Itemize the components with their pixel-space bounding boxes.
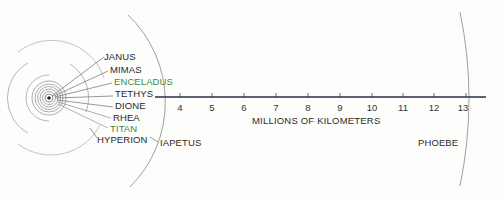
tick-label-6: 6 bbox=[241, 103, 246, 113]
tick-label-13: 13 bbox=[458, 103, 469, 113]
tick-label-11: 11 bbox=[398, 103, 408, 113]
tick-label-9: 9 bbox=[337, 103, 342, 113]
label-enceladus: ENCELADUS bbox=[114, 77, 173, 87]
orbit-diagram-svg bbox=[0, 0, 502, 199]
orbit-phoebe bbox=[460, 12, 469, 186]
tick-label-8: 8 bbox=[305, 103, 310, 113]
axis-title: MILLIONS OF KILOMETERS bbox=[252, 116, 380, 126]
label-hyperion: HYPERION bbox=[97, 135, 147, 145]
label-rhea: RHEA bbox=[113, 113, 140, 123]
label-iapetus: IAPETUS bbox=[160, 138, 201, 148]
tick-label-12: 12 bbox=[429, 103, 440, 113]
label-titan: TITAN bbox=[110, 124, 137, 134]
orbit-hyperion-bottom bbox=[18, 125, 100, 155]
tick-label-5: 5 bbox=[209, 103, 214, 113]
saturn-icon bbox=[47, 96, 51, 100]
label-janus: JANUS bbox=[104, 52, 136, 62]
label-phoebe: PHOEBE bbox=[418, 138, 458, 148]
tick-label-10: 10 bbox=[367, 103, 378, 113]
orbit-hyperion-top bbox=[18, 40, 104, 78]
label-dione: DIONE bbox=[115, 101, 146, 111]
orbit-titan-right bbox=[70, 64, 89, 112]
tick-label-4: 4 bbox=[177, 103, 182, 113]
label-mimas: MIMAS bbox=[110, 65, 142, 75]
label-tethys: TETHYS bbox=[115, 89, 153, 99]
tick-label-7: 7 bbox=[273, 103, 278, 113]
orbit-titan-left bbox=[7, 63, 28, 133]
saturn-moon-orbit-diagram: JANUS MIMAS ENCELADUS TETHYS DIONE RHEA … bbox=[0, 0, 502, 199]
